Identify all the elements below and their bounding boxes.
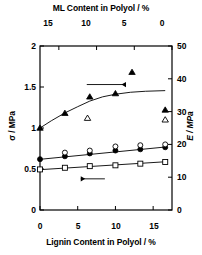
data-point bbox=[87, 164, 92, 169]
data-point bbox=[138, 143, 143, 148]
data-point bbox=[163, 160, 168, 165]
data-point bbox=[162, 107, 168, 112]
data-point bbox=[87, 148, 92, 153]
plot-frame bbox=[40, 46, 172, 210]
axis-ticks bbox=[40, 46, 172, 210]
data-point bbox=[87, 94, 93, 99]
plot-area bbox=[0, 0, 202, 255]
data-point bbox=[38, 167, 43, 172]
fit-curves bbox=[40, 91, 165, 170]
data-point bbox=[84, 115, 90, 120]
data-point bbox=[112, 90, 118, 95]
series-filled-triangle bbox=[37, 69, 169, 130]
data-point bbox=[113, 163, 118, 168]
data-point bbox=[62, 110, 68, 115]
data-point bbox=[163, 142, 168, 147]
data-point bbox=[129, 69, 135, 74]
data-point bbox=[62, 165, 67, 170]
data-point bbox=[38, 157, 43, 162]
data-point bbox=[138, 161, 143, 166]
series-open-triangle bbox=[84, 115, 168, 122]
chart-figure: ML Content in Polyol / % Lignin Content … bbox=[0, 0, 202, 255]
data-point bbox=[162, 117, 168, 122]
data-point bbox=[62, 150, 67, 155]
data-point bbox=[113, 144, 118, 149]
